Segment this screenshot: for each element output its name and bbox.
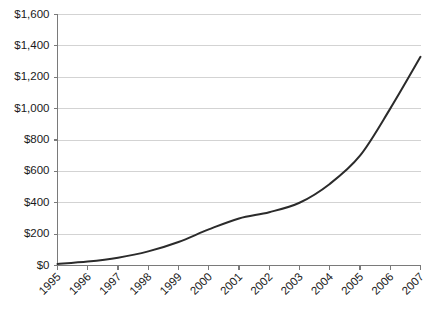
y-axis-tick-label: $400 — [24, 196, 50, 208]
chart-canvas: $0$200$400$600$800$1,000$1,200$1,400$1,6… — [0, 0, 437, 310]
y-axis-tick-label: $1,000 — [14, 102, 49, 114]
y-axis-tick-label: $0 — [37, 259, 50, 271]
y-axis-tick-label: $1,400 — [14, 39, 49, 51]
y-axis-tick-label: $1,200 — [14, 70, 49, 82]
y-axis-tick-label: $600 — [24, 164, 50, 176]
y-axis-tick-label: $800 — [24, 133, 50, 145]
y-axis-tick-label: $200 — [24, 227, 50, 239]
y-axis-tick-label: $1,600 — [14, 8, 49, 20]
line-chart-figure: $0$200$400$600$800$1,000$1,200$1,400$1,6… — [0, 0, 437, 310]
